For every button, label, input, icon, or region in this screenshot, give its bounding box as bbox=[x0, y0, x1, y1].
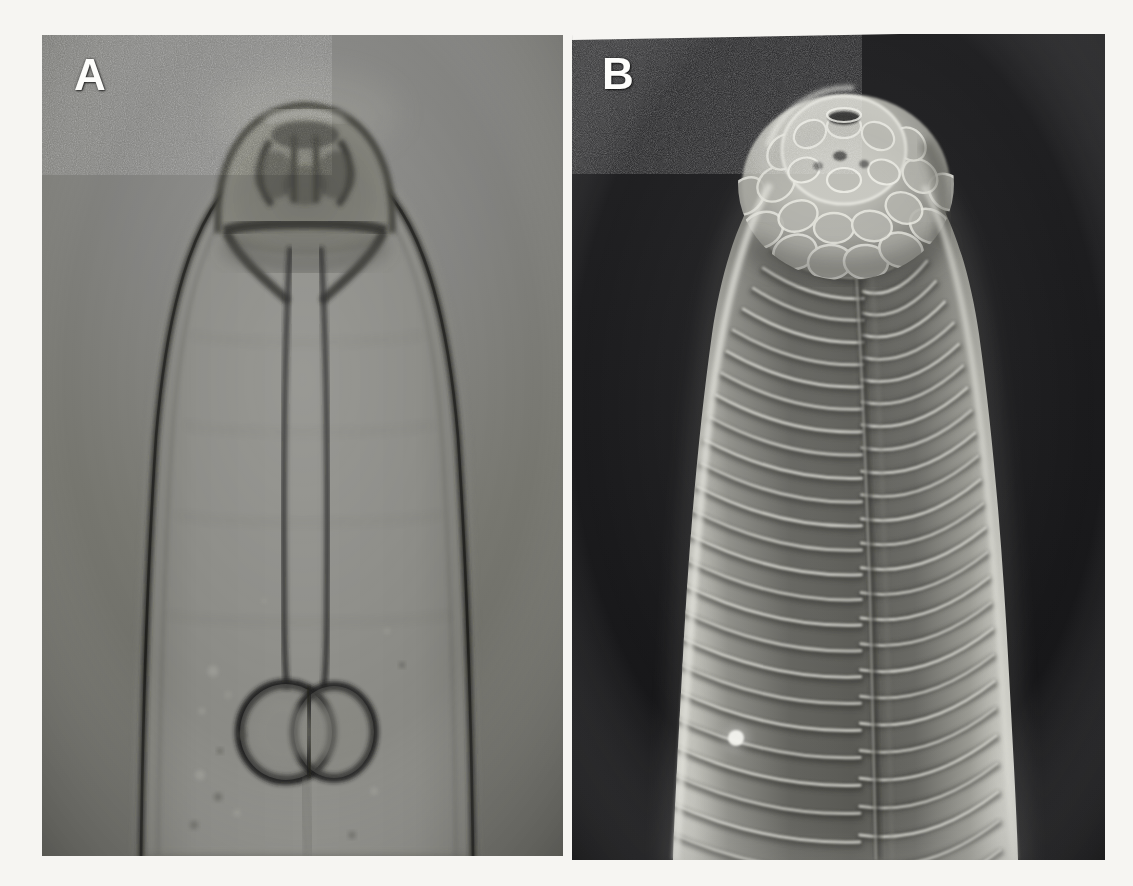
panel-a-vignette bbox=[42, 35, 563, 856]
panel-a-label: A bbox=[74, 53, 106, 97]
panel-b-scanning-electron-micrograph: B bbox=[572, 34, 1105, 860]
panel-b-label: B bbox=[602, 52, 634, 96]
figure-root: A bbox=[0, 0, 1133, 886]
panel-b-vignette bbox=[572, 34, 1105, 860]
panel-a-content bbox=[42, 35, 563, 856]
panel-b-content bbox=[572, 34, 1105, 860]
panel-a-light-micrograph: A bbox=[42, 35, 563, 856]
